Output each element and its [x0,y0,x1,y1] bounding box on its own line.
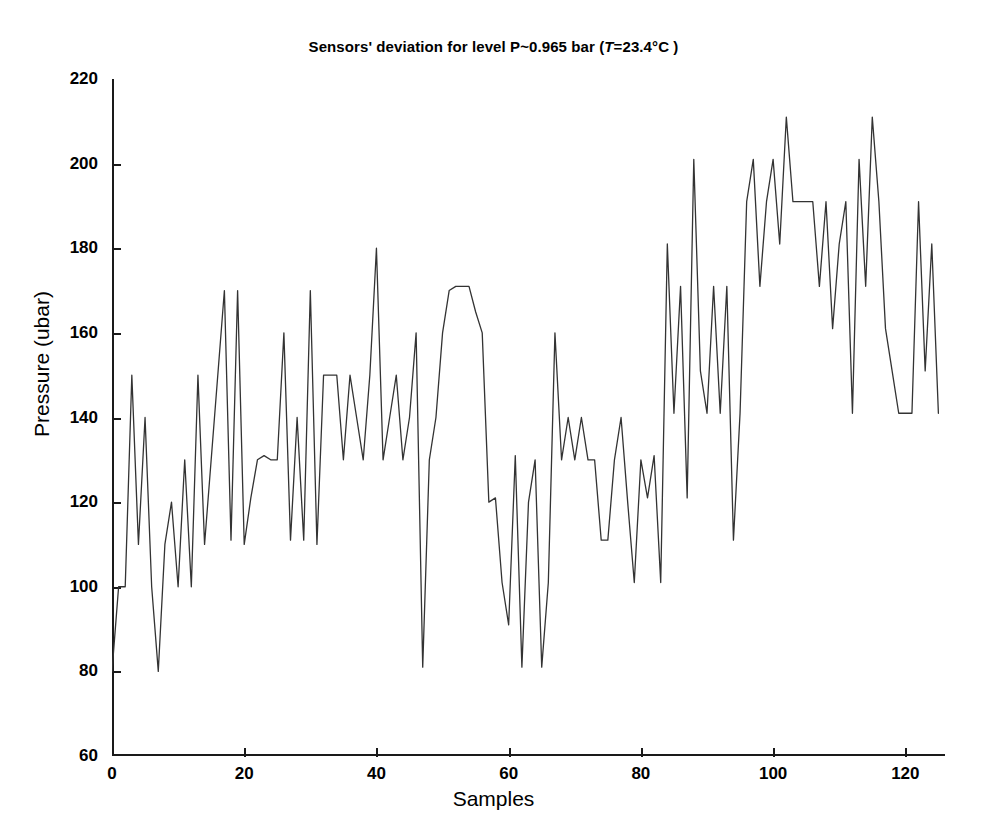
x-tick-label: 20 [214,764,274,784]
chart-title-after: =23.4°C ) [614,38,679,55]
x-axis-tick-labels: 020406080100120 [0,760,987,790]
chart-title-before: Sensors' deviation for level P~0.965 bar… [309,38,605,55]
y-tick-label: 100 [48,577,98,597]
y-tick-label: 120 [48,492,98,512]
data-line-chart [112,79,945,756]
chart-title-italic-var: T [604,38,613,55]
y-tick-label: 160 [48,323,98,343]
x-tick-label: 0 [82,764,142,784]
x-tick-label: 60 [479,764,539,784]
plot-area [112,79,945,756]
y-tick-label: 220 [48,69,98,89]
y-tick-label: 180 [48,238,98,258]
x-axis-label: Samples [0,787,987,811]
y-tick-label: 140 [48,408,98,428]
y-axis-tick-labels: 6080100120140160180200220 [36,79,98,756]
y-tick-label: 80 [48,661,98,681]
chart-title: Sensors' deviation for level P~0.965 bar… [0,38,987,55]
x-tick-label: 120 [875,764,935,784]
data-series-line [112,117,938,671]
x-tick-label: 80 [611,764,671,784]
x-tick-label: 100 [743,764,803,784]
y-tick-label: 200 [48,154,98,174]
chart-page: Sensors' deviation for level P~0.965 bar… [0,0,987,839]
x-tick-label: 40 [346,764,406,784]
